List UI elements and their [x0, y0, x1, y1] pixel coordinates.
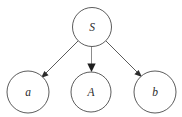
node-b-label: b [152, 86, 158, 98]
graph-canvas: S a A b [0, 0, 182, 117]
edge-line-s-b [106, 41, 140, 75]
node-a-label: a [25, 86, 31, 98]
node-s-label: S [89, 21, 95, 33]
node-s[interactable]: S [73, 8, 112, 47]
edge-s-to-a-upper [87, 47, 95, 73]
node-b[interactable]: b [134, 71, 176, 113]
edge-s-to-b [106, 41, 142, 77]
node-a-upper-label: A [86, 86, 95, 98]
node-a[interactable]: a [7, 71, 49, 113]
edge-s-to-a [41, 41, 78, 78]
graph-diagram: S a A b [0, 0, 182, 117]
node-a-upper[interactable]: A [71, 72, 111, 112]
edge-line-s-a [44, 41, 79, 76]
arrowhead-s-A [87, 64, 95, 73]
